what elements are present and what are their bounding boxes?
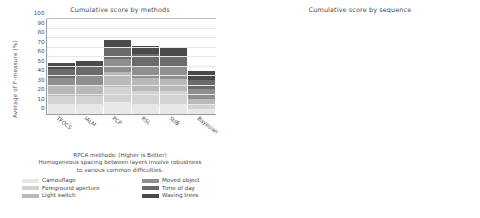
stacked-bar[interactable] bbox=[48, 63, 75, 114]
x-axis-tick: Bayesian bbox=[196, 115, 219, 135]
legend-swatch-icon bbox=[22, 194, 39, 198]
bar-group-methods: TFOCSIALMPCPRSLSUBBayesian bbox=[47, 19, 216, 114]
stacked-bar[interactable] bbox=[76, 61, 103, 114]
legend-swatch-icon bbox=[142, 179, 159, 183]
bar-slot[interactable]: Bayesian bbox=[188, 19, 215, 114]
legend-title-methods: RPCA methods: (Higher is Better) Homogen… bbox=[0, 152, 240, 174]
bar-segment[interactable] bbox=[188, 109, 215, 114]
x-axis-tick: TFOCS bbox=[55, 115, 73, 131]
y-axis-tick: 50 bbox=[37, 58, 44, 64]
gridline bbox=[47, 94, 216, 95]
gridline bbox=[47, 18, 216, 19]
legend-item-label: Camouflage bbox=[42, 177, 76, 185]
legend-swatch-icon bbox=[142, 186, 159, 190]
y-axis-tick: 60 bbox=[37, 48, 44, 54]
legend-item[interactable]: Waving trees bbox=[120, 192, 240, 200]
x-axis-tick: IALM bbox=[84, 115, 98, 128]
y-axis-tick: 100 bbox=[34, 10, 45, 16]
legend-item[interactable]: Camouflage bbox=[0, 177, 120, 185]
legend-item[interactable]: Moved object bbox=[120, 177, 240, 185]
chart-title-sequence: Cumulative score by sequence bbox=[240, 6, 480, 14]
gridline bbox=[47, 37, 216, 38]
legend-item-label: Time of day bbox=[162, 185, 195, 193]
bar-slot[interactable]: TFOCS bbox=[48, 19, 75, 114]
legend-item-label: Light switch bbox=[42, 192, 76, 200]
bar-segment[interactable] bbox=[160, 104, 187, 114]
legend-item-label: Moved object bbox=[162, 177, 200, 185]
bar-segment[interactable] bbox=[132, 104, 159, 114]
y-axis-tick: 10 bbox=[37, 96, 44, 102]
stacked-bar[interactable] bbox=[188, 71, 215, 114]
legend-items-methods: CamouflageMoved objectForeground apertur… bbox=[0, 177, 240, 200]
x-axis-tick: SUB bbox=[168, 115, 180, 127]
bar-segment[interactable] bbox=[76, 105, 103, 114]
gridline bbox=[47, 85, 216, 86]
y-axis-tick: 30 bbox=[37, 77, 44, 83]
x-axis-tick: RSL bbox=[140, 115, 152, 126]
gridline bbox=[47, 28, 216, 29]
gridline bbox=[47, 66, 216, 67]
legend-item[interactable]: Foreground aperture bbox=[0, 185, 120, 193]
bar-slot[interactable]: IALM bbox=[76, 19, 103, 114]
bar-segment[interactable] bbox=[160, 67, 187, 78]
legend-swatch-icon bbox=[22, 179, 39, 183]
gridline bbox=[47, 47, 216, 48]
bar-segment[interactable] bbox=[104, 48, 131, 59]
bar-slot[interactable]: RSL bbox=[132, 19, 159, 114]
bar-segment[interactable] bbox=[48, 105, 75, 114]
y-axis-tick: 40 bbox=[37, 67, 44, 73]
chart-panel-sequence: Cumulative score by sequence Average of … bbox=[240, 0, 480, 218]
bar-segment[interactable] bbox=[132, 66, 159, 78]
legend-swatch-icon bbox=[22, 186, 39, 190]
gridline bbox=[47, 56, 216, 57]
figure-root: Cumulative score by methods Average of F… bbox=[0, 0, 480, 218]
plot-area-methods: TFOCSIALMPCPRSLSUBBayesian 0102030405060… bbox=[46, 19, 216, 115]
bar-slot[interactable]: PCP bbox=[104, 19, 131, 114]
legend-item-label: Foreground aperture bbox=[42, 185, 100, 193]
y-axis-tick: 0 bbox=[41, 105, 45, 111]
chart-panel-methods: Cumulative score by methods Average of F… bbox=[0, 0, 240, 218]
bar-slot[interactable]: SUB bbox=[160, 19, 187, 114]
y-axis-tick: 70 bbox=[37, 39, 44, 45]
bar-segment[interactable] bbox=[48, 69, 75, 78]
legend-swatch-icon bbox=[142, 194, 159, 198]
gridline bbox=[47, 104, 216, 105]
gridline bbox=[47, 75, 216, 76]
y-axis-tick: 20 bbox=[37, 86, 44, 92]
legend-item[interactable]: Time of day bbox=[120, 185, 240, 193]
y-axis-tick: 90 bbox=[37, 20, 44, 26]
legend-item[interactable]: Light switch bbox=[0, 192, 120, 200]
x-axis-tick: PCP bbox=[112, 115, 124, 126]
legend-methods: RPCA methods: (Higher is Better) Homogen… bbox=[0, 152, 240, 200]
legend-item-label: Waving trees bbox=[162, 192, 199, 200]
y-axis-tick: 80 bbox=[37, 29, 44, 35]
y-axis-label-methods: Average of F-measure (%) bbox=[12, 40, 18, 118]
